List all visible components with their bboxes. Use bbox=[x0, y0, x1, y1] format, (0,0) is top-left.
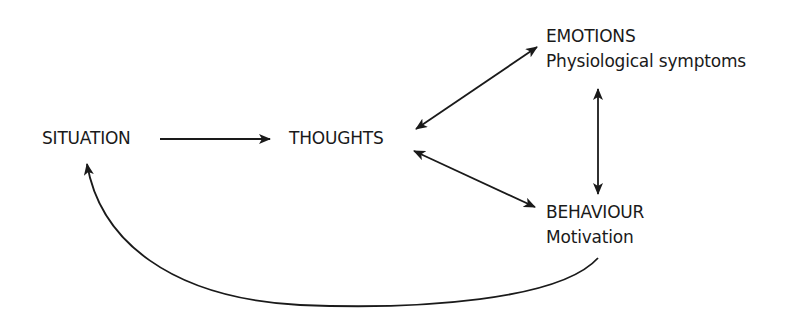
node-behaviour: BEHAVIOUR bbox=[546, 202, 644, 222]
arrow-thoughts-behaviour bbox=[414, 151, 535, 207]
cbt-diagram: SITUATION THOUGHTS EMOTIONS Physiologica… bbox=[0, 0, 785, 324]
node-thoughts: THOUGHTS bbox=[289, 128, 384, 148]
node-behaviour-subtitle: Motivation bbox=[546, 227, 634, 247]
arrow-thoughts-emotions bbox=[416, 47, 537, 129]
node-situation: SITUATION bbox=[42, 128, 131, 148]
node-emotions-subtitle: Physiological symptoms bbox=[546, 51, 746, 71]
arrow-behaviour-to-situation bbox=[87, 164, 598, 306]
arrows-layer bbox=[0, 0, 785, 324]
node-emotions: EMOTIONS bbox=[546, 26, 635, 46]
